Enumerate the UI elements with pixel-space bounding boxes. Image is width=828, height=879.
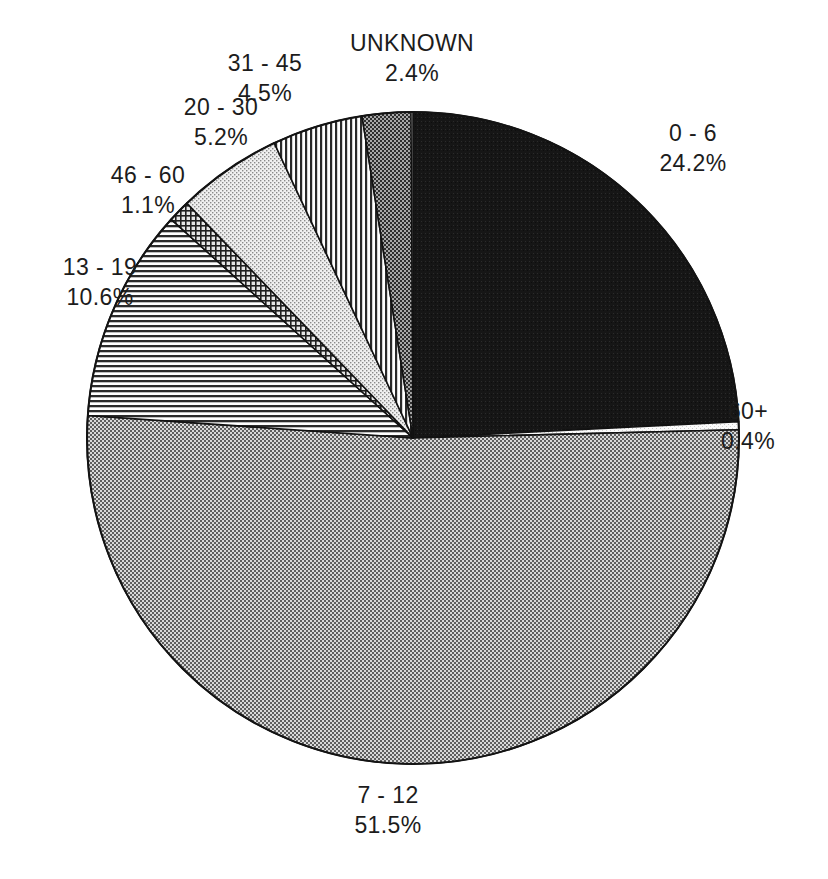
pie-label-46-60-name: 46 - 60 <box>72 160 224 190</box>
pie-label-13-19-percent: 10.6% <box>20 282 180 312</box>
pie-label-7-12: 7 - 12 51.5% <box>308 780 468 840</box>
pie-label-0-6-percent: 24.2% <box>620 148 766 178</box>
pie-label-unknown-name: UNKNOWN <box>332 28 492 58</box>
pie-label-13-19-name: 13 - 19 <box>20 252 180 282</box>
pie-chart: UNKNOWN 2.4% 31 - 45 4.5% 20 - 30 5.2% 4… <box>0 0 828 879</box>
pie-label-46-60: 46 - 60 1.1% <box>72 160 224 220</box>
pie-label-20-30: 20 - 30 5.2% <box>148 92 294 152</box>
pie-label-0-6-name: 0 - 6 <box>620 118 766 148</box>
pie-label-7-12-percent: 51.5% <box>308 810 468 840</box>
pie-label-0-6: 0 - 6 24.2% <box>620 118 766 178</box>
pie-label-13-19: 13 - 19 10.6% <box>20 252 180 312</box>
pie-label-7-12-name: 7 - 12 <box>308 780 468 810</box>
pie-label-20-30-name: 20 - 30 <box>148 92 294 122</box>
pie-label-31-45-name: 31 - 45 <box>192 48 338 78</box>
pie-slice[interactable] <box>87 415 739 763</box>
pie-label-unknown-percent: 2.4% <box>332 58 492 88</box>
pie-label-60plus: 60+ 0.4% <box>680 396 816 456</box>
pie-label-20-30-percent: 5.2% <box>148 122 294 152</box>
pie-label-60plus-name: 60+ <box>680 396 816 426</box>
pie-label-60plus-percent: 0.4% <box>680 426 816 456</box>
pie-label-unknown: UNKNOWN 2.4% <box>332 28 492 88</box>
pie-label-46-60-percent: 1.1% <box>72 190 224 220</box>
